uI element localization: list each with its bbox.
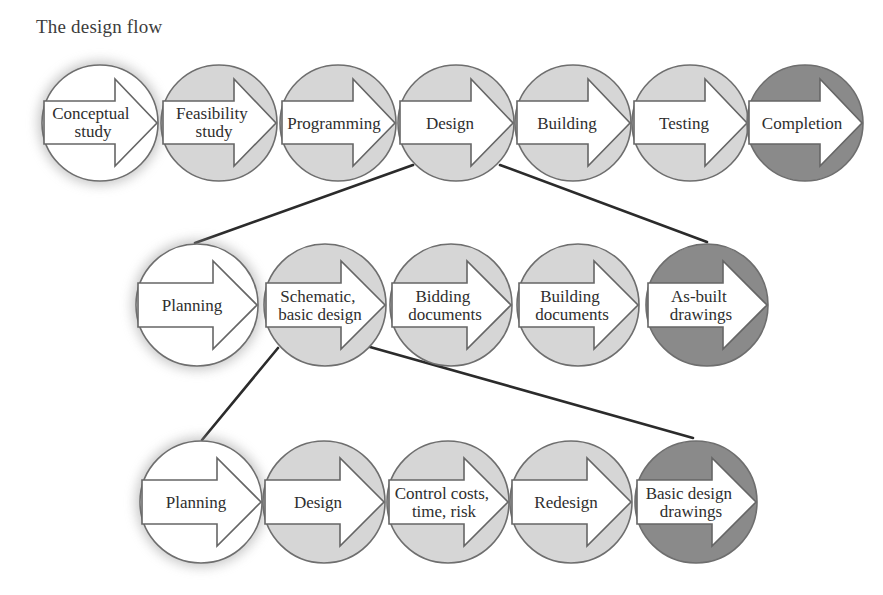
step-conceptual-study: Conceptual study [38,61,162,185]
step-testing: Testing [632,65,748,181]
step-label: Building [537,114,597,133]
step-label: Design [426,114,475,133]
step-design: Design [398,65,514,181]
step-feasibility-study: Feasibility study [161,65,277,181]
step-label: Planning [166,493,227,512]
step-building: Building [515,65,631,181]
step-planning: Planning [136,437,266,567]
step-building-documents: Building documents [517,244,639,366]
step-basic-design-drawings: Basic design drawings [635,441,757,563]
step-as-built-drawings: As-built drawings [646,244,768,366]
step-label: Redesign [534,493,598,512]
step-completion: Completion [747,65,863,181]
step-design: Design [263,441,385,563]
step-bidding-documents: Bidding documents [390,244,512,366]
step-planning: Planning [132,240,262,370]
step-label: Testing [659,114,709,133]
step-label: Bidding documents [408,287,482,324]
step-label: Design [294,493,343,512]
step-label: Schematic, basic design [278,287,362,324]
step-label: Building documents [535,287,609,324]
step-label: Completion [762,114,843,133]
step-redesign: Redesign [510,441,632,563]
step-control-costs-time-risk: Control costs, time, risk [387,441,509,563]
row-design-phase: Planning Schematic, basic design Bidding… [132,240,768,370]
connector-schematic-to-basic-drawings [370,347,693,438]
row-schematic-design: Planning Design Control costs, time, ris… [136,437,757,567]
row-project-lifecycle: Conceptual study Feasibility study Progr… [38,61,863,185]
step-label: Planning [162,296,223,315]
step-programming: Programming [280,65,396,181]
step-label: Programming [287,114,381,133]
step-label: As-built drawings [670,287,732,324]
design-flow-diagram: Conceptual study Feasibility study Progr… [0,0,883,595]
step-schematic-basic-design: Schematic, basic design [264,244,386,366]
